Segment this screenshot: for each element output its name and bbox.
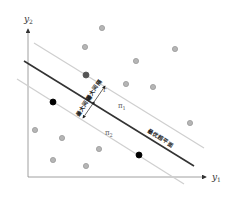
- arrow-midpoint: [92, 102, 94, 104]
- support-vector-dark-gray: [83, 72, 89, 78]
- pi1-label: π1: [118, 102, 126, 111]
- margin-line-pi2: [17, 79, 184, 184]
- data-point-gray: [32, 127, 37, 132]
- support-vector-black: [136, 152, 142, 158]
- margin-line-pi1: [34, 43, 204, 148]
- y1-axis-label: y1: [211, 172, 221, 183]
- data-point-gray: [59, 135, 64, 140]
- y2-axis-label: y2: [23, 14, 33, 25]
- data-point-gray: [187, 120, 192, 125]
- data-points: [32, 25, 192, 168]
- data-point-gray: [82, 44, 87, 49]
- data-point-gray: [172, 46, 177, 51]
- data-point-gray: [96, 146, 101, 151]
- support-vector-black: [50, 99, 56, 105]
- pi2-label: π2: [105, 129, 113, 138]
- data-point-gray: [133, 58, 138, 63]
- data-point-gray: [123, 81, 128, 86]
- data-point-gray: [150, 84, 155, 89]
- optimal-hyperplane: [24, 61, 194, 166]
- data-point-gray: [99, 25, 104, 30]
- data-point-gray: [83, 163, 88, 168]
- data-point-gray: [50, 157, 55, 162]
- svm-diagram: y2 y1 最大间隔 最大间隔 r π1 π2 最优超平面: [0, 0, 231, 198]
